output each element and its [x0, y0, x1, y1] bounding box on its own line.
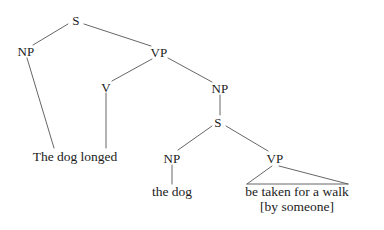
syntax-tree-figure: SNPVPVNPSNPVPThe dog longedthe dogbe tak… [0, 0, 384, 230]
tree-node-s: S [72, 14, 79, 27]
tree-edge-e-np1-leaf [27, 58, 54, 148]
tree-node-np3: NP [163, 152, 180, 165]
tree-leaf-vp-line2: [by someone] [260, 200, 334, 214]
tree-edge-e-vp2-tri-right [279, 166, 348, 184]
tree-node-v: V [101, 81, 111, 94]
tree-leaf-vp-line1: be taken for a walk [245, 185, 348, 199]
tree-leaf-the-dog: the dog [152, 185, 192, 199]
tree-node-np2: NP [211, 82, 228, 95]
tree-edge-e-s-np1 [33, 24, 68, 45]
tree-node-vp2: VP [266, 152, 283, 165]
tree-edge-e-s2-vp2 [226, 126, 268, 151]
tree-node-np1: NP [17, 45, 34, 58]
tree-edge-e-vp1-v [112, 59, 152, 81]
tree-node-s2: S [214, 116, 221, 129]
tree-leaf-main: The dog longed [33, 150, 118, 164]
tree-node-vp1: VP [150, 46, 167, 59]
tree-edge-e-vp2-tri-left [247, 166, 272, 184]
tree-edge-e-s-vp1 [84, 24, 151, 46]
tree-edge-e-vp1-np2 [168, 58, 212, 82]
tree-edge-e-s2-np3 [178, 126, 212, 150]
